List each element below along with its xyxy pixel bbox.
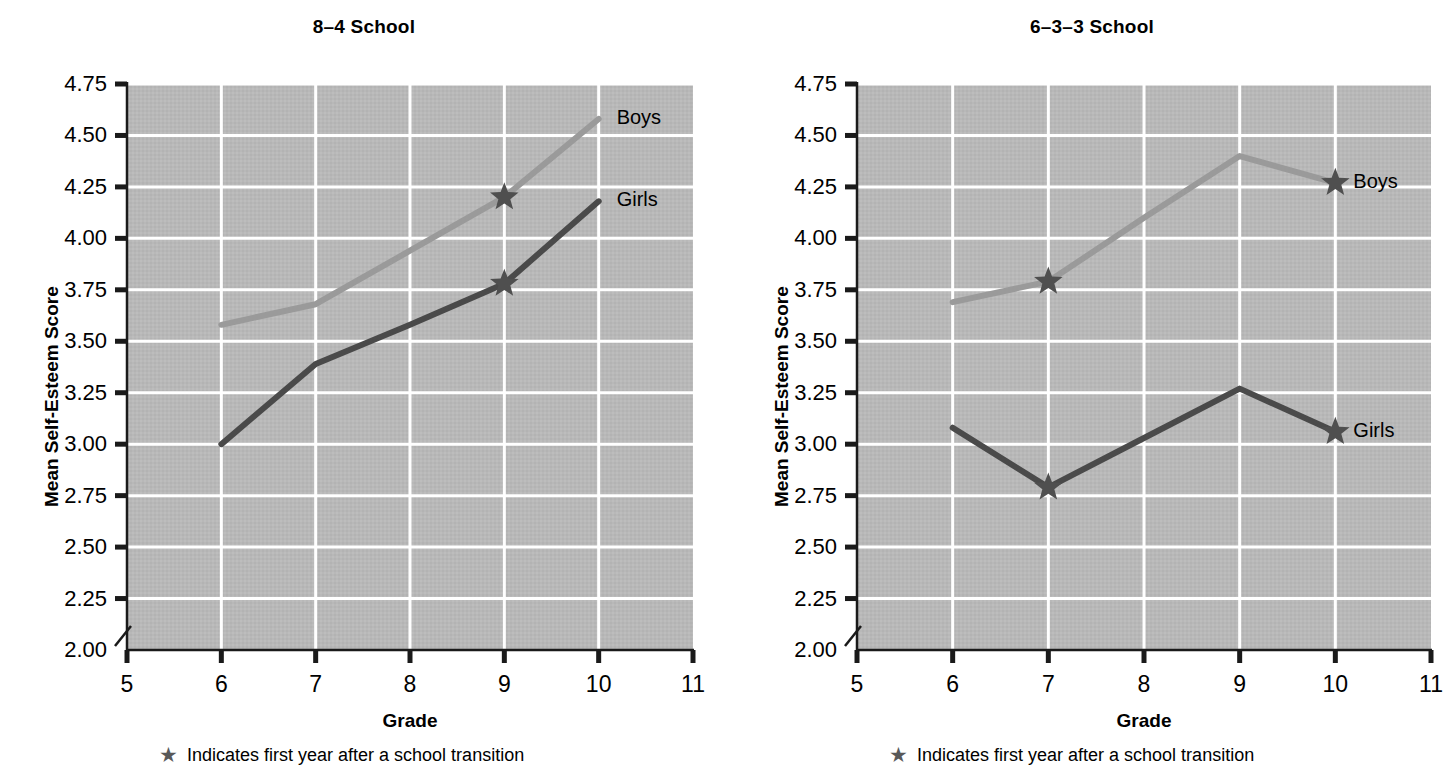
y-tick-label: 3.50 [794, 328, 837, 353]
y-tick-label: 3.25 [64, 380, 107, 405]
series-label-girls: Girls [1353, 419, 1394, 442]
series-label-boys: Boys [1353, 170, 1397, 193]
x-tick-label: 8 [404, 671, 417, 697]
x-tick-label: 11 [681, 671, 705, 697]
y-tick-label: 4.25 [64, 174, 107, 199]
y-tick-label: 3.75 [64, 277, 107, 302]
star-icon: ★ [159, 744, 178, 765]
x-tick-label: 11 [1419, 671, 1443, 697]
footnote-text: Indicates first year after a school tran… [917, 745, 1254, 766]
y-tick-label: 4.25 [794, 174, 837, 199]
x-tick-label: 10 [1323, 671, 1349, 697]
figure-root: 8–4 School 4.754.504.254.003.753.503.253… [0, 0, 1456, 778]
x-tick-label: 5 [121, 671, 134, 697]
chart-panel-6-3-3-school: 6–3–3 School 4.754.504.254.003.753.503.2… [728, 0, 1456, 778]
plot-canvas: 4.754.504.254.003.753.503.253.002.752.50… [728, 0, 1456, 778]
y-tick-label: 4.50 [794, 122, 837, 147]
y-tick-label: 2.75 [64, 483, 107, 508]
chart-panel-8-4-school: 8–4 School 4.754.504.254.003.753.503.253… [0, 0, 728, 778]
x-tick-label: 9 [1233, 671, 1246, 697]
y-tick-label: 4.75 [794, 71, 837, 96]
y-tick-label: 4.00 [794, 225, 837, 250]
y-tick-label: 4.00 [64, 225, 107, 250]
x-tick-label: 7 [309, 671, 322, 697]
y-tick-label: 2.50 [794, 534, 837, 559]
y-axis-label: Mean Self-Esteem Score [41, 286, 63, 507]
y-tick-label: 2.25 [64, 586, 107, 611]
y-tick-label: 3.50 [64, 328, 107, 353]
x-tick-label: 8 [1138, 671, 1151, 697]
x-tick-label: 7 [1042, 671, 1055, 697]
x-axis-label: Grade [127, 710, 693, 732]
series-label-girls: Girls [617, 188, 658, 211]
series-label-boys: Boys [617, 106, 661, 129]
x-tick-label: 9 [498, 671, 511, 697]
x-tick-label: 10 [586, 671, 612, 697]
x-tick-label: 5 [851, 671, 864, 697]
y-tick-label: 4.75 [64, 71, 107, 96]
footnote: ★ Indicates first year after a school tr… [889, 745, 1254, 766]
footnote: ★ Indicates first year after a school tr… [159, 745, 524, 766]
y-tick-label: 2.25 [794, 586, 837, 611]
y-tick-label: 2.00 [794, 637, 837, 662]
y-tick-label: 4.50 [64, 122, 107, 147]
x-tick-label: 6 [215, 671, 228, 697]
y-tick-label: 3.75 [794, 277, 837, 302]
x-axis-label: Grade [857, 710, 1431, 732]
y-tick-label: 2.00 [64, 637, 107, 662]
y-tick-label: 3.00 [64, 431, 107, 456]
y-tick-label: 2.75 [794, 483, 837, 508]
y-tick-label: 3.25 [794, 380, 837, 405]
star-icon: ★ [889, 744, 908, 765]
y-tick-label: 3.00 [794, 431, 837, 456]
y-tick-label: 2.50 [64, 534, 107, 559]
x-tick-label: 6 [946, 671, 959, 697]
footnote-text: Indicates first year after a school tran… [187, 745, 524, 766]
y-axis-label: Mean Self-Esteem Score [771, 286, 793, 507]
